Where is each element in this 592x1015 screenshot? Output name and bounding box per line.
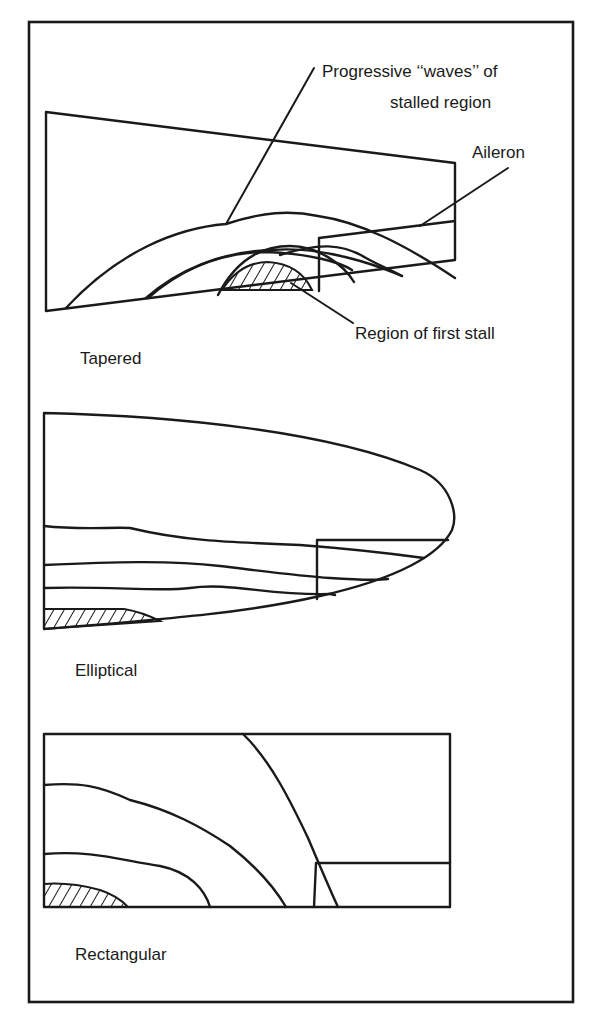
aileron-label: Aileron: [472, 143, 525, 162]
figure-frame: [29, 22, 573, 1002]
elliptical-first-stall-region: [44, 609, 160, 629]
rectangular-stall-wave-3: [243, 734, 338, 907]
waves-label-line1: Progressive ‘‘waves’’ of: [322, 62, 498, 81]
tapered-caption: Tapered: [80, 349, 141, 368]
waves-label-line2: stalled region: [390, 93, 491, 112]
tapered-first-stall-region: [222, 262, 312, 290]
first-stall-leader-line: [291, 283, 353, 323]
first-stall-label: Region of first stall: [355, 324, 495, 343]
aileron-leader-line: [420, 168, 508, 226]
rectangular-first-stall-region: [44, 884, 128, 907]
rectangular-caption: Rectangular: [75, 945, 167, 964]
rectangular-wing-outline: [44, 734, 450, 907]
panel-elliptical: [44, 413, 454, 629]
panel-rectangular: [44, 734, 450, 907]
panel-tapered: Progressive ‘‘waves’’ of stalled region …: [46, 62, 525, 368]
elliptical-stall-wave-3: [44, 526, 424, 558]
elliptical-stall-wave-1: [44, 586, 335, 595]
waves-leader-line: [226, 68, 314, 224]
elliptical-stall-wave-2: [44, 562, 388, 580]
tapered-stall-wave-4: [66, 213, 455, 308]
elliptical-caption: Elliptical: [75, 661, 137, 680]
wing-stall-diagram: Progressive ‘‘waves’’ of stalled region …: [0, 0, 592, 1015]
elliptical-wing-outline: [44, 413, 454, 629]
